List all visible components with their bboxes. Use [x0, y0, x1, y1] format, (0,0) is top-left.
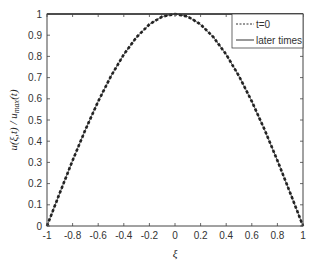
y-tick-label: 0.6 [28, 93, 42, 104]
legend-label-t0: t=0 [256, 19, 271, 30]
y-tick-label: 0 [36, 221, 42, 232]
x-tick-label: 0 [172, 230, 178, 241]
y-axis-label-main: u(ξ,t) / u [7, 113, 20, 151]
x-tick-label: 0.4 [219, 230, 233, 241]
y-axis-label-tail: (t) [7, 89, 20, 100]
line-chart: -1-0.8-0.6-0.4-0.200.20.40.60.81 00.10.2… [0, 0, 315, 271]
y-axis-label-sub: max [12, 99, 21, 113]
y-tick-label: 0.1 [28, 199, 42, 210]
x-tick-label: -0.2 [141, 230, 159, 241]
y-tick-label: 0.9 [28, 30, 42, 41]
legend: t=0 later times [232, 14, 303, 48]
x-tick-label: 0.2 [194, 230, 208, 241]
x-tick-label: 1 [300, 230, 306, 241]
x-tick-label: -1 [43, 230, 52, 241]
y-tick-label: 0.8 [28, 51, 42, 62]
y-tick-label: 0.3 [28, 157, 42, 168]
x-tick-label: -0.8 [64, 230, 82, 241]
x-tick-label: -0.4 [115, 230, 133, 241]
x-tick-label: 0.6 [245, 230, 259, 241]
y-tick-label: 0.5 [28, 115, 42, 126]
legend-label-later-times: later times [256, 35, 302, 46]
x-tick-label: -0.6 [90, 230, 108, 241]
x-axis-label: ξ [173, 247, 178, 260]
y-tick-label: 1 [36, 9, 42, 20]
y-tick-label: 0.4 [28, 136, 42, 147]
y-tick-label: 0.2 [28, 178, 42, 189]
y-tick-label: 0.7 [28, 72, 42, 83]
x-tick-label: 0.8 [270, 230, 284, 241]
y-axis-label: u(ξ,t) / umax(t) [7, 89, 21, 150]
